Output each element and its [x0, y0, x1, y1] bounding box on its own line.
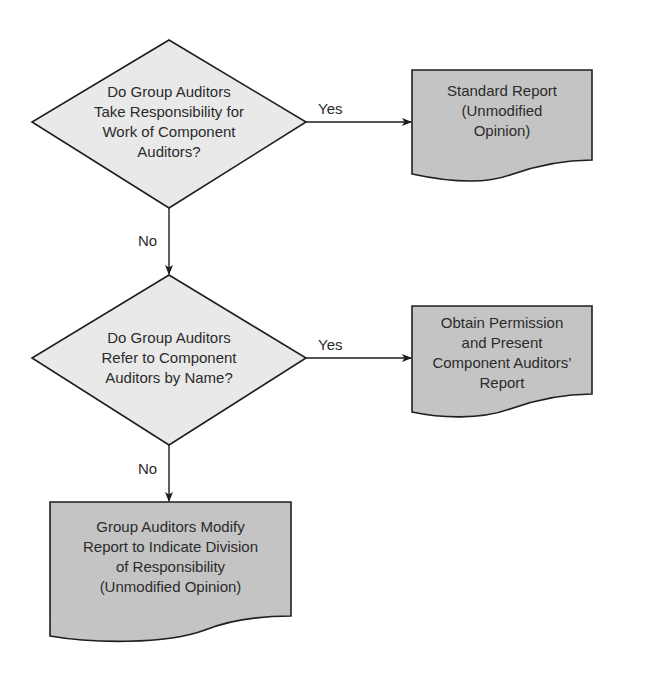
report-1-text: Standard Report (Unmodified Opinion) [412, 76, 592, 146]
report-2-line-4: Report [432, 373, 571, 393]
decision-1-line-1: Do Group Auditors [94, 82, 244, 102]
report-1-line-2: (Unmodified [447, 101, 557, 121]
edge-label-no-1: No [138, 232, 157, 250]
report-3-text: Group Auditors Modify Report to Indicate… [50, 512, 291, 602]
edge-label-yes-1: Yes [318, 100, 342, 118]
edge-label-no-2: No [138, 460, 157, 478]
report-2-line-3: Component Auditors’ [432, 353, 571, 373]
report-2-line-1: Obtain Permission [432, 313, 571, 333]
decision-2-line-3: Auditors by Name? [101, 368, 236, 388]
report-3-line-4: (Unmodified Opinion) [83, 577, 258, 597]
decision-1-line-2: Take Responsibility for [94, 102, 244, 122]
report-1-line-3: Opinion) [447, 121, 557, 141]
decision-1-line-3: Work of Component [94, 122, 244, 142]
decision-2-text: Do Group Auditors Refer to Component Aud… [70, 322, 268, 394]
decision-2-line-2: Refer to Component [101, 348, 236, 368]
decision-2-line-1: Do Group Auditors [101, 328, 236, 348]
report-2-text: Obtain Permission and Present Component … [406, 310, 598, 396]
report-1-line-1: Standard Report [447, 81, 557, 101]
edge-label-yes-2: Yes [318, 336, 342, 354]
report-3-line-1: Group Auditors Modify [83, 517, 258, 537]
report-3-line-2: Report to Indicate Division [83, 537, 258, 557]
decision-1-text: Do Group Auditors Take Responsibility fo… [70, 76, 268, 168]
decision-1-line-4: Auditors? [94, 142, 244, 162]
report-3-line-3: of Responsibility [83, 557, 258, 577]
report-2-line-2: and Present [432, 333, 571, 353]
